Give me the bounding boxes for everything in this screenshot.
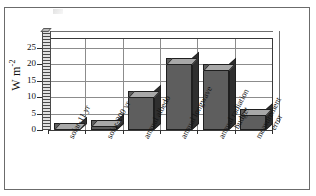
bar-top-face <box>166 58 198 65</box>
y-tick-label: 5 <box>32 109 37 118</box>
y-tick-label: 20 <box>27 59 36 68</box>
bar-chart: W m-2 0510152025 solar-11 yrsolar-200 yr… <box>4 7 310 190</box>
y-axis-tick-labels: 0510152025 <box>4 7 36 190</box>
y-tick-label: 0 <box>32 125 37 134</box>
x-tick-mark <box>123 130 124 134</box>
y-tick-label: 15 <box>27 76 36 85</box>
y-tick-mark <box>37 130 43 131</box>
x-tick-mark <box>48 130 49 134</box>
x-tick-mark <box>197 130 198 134</box>
y-tick-label: 10 <box>27 92 36 101</box>
y-axis-wall <box>42 31 51 130</box>
plot-back-top-edge <box>48 31 273 32</box>
x-tick-mark <box>85 130 86 134</box>
plot-top-edge <box>48 38 273 39</box>
y-tick-label: 25 <box>27 43 36 52</box>
x-tick-mark <box>160 130 161 134</box>
